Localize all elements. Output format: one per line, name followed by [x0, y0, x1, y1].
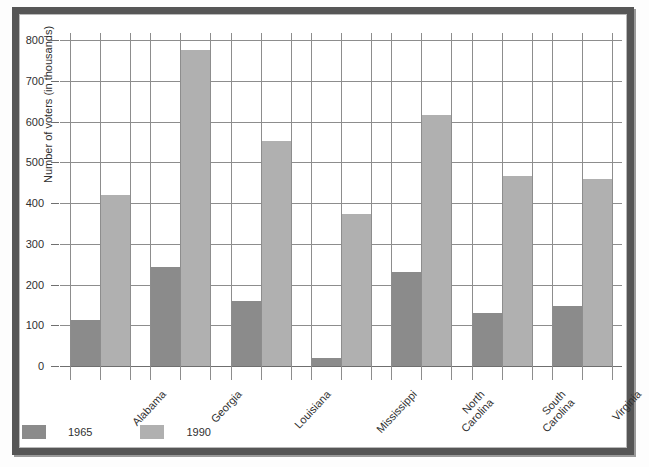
y-tick-mark: [51, 40, 59, 41]
bar-mississippi-1990: [341, 214, 371, 366]
x-tick-mark: [612, 366, 613, 380]
x-gridline: [371, 33, 372, 366]
x-tick-mark: [532, 366, 533, 380]
bar-north-carolina-1965: [391, 272, 421, 366]
y-tick-label: 700: [4, 75, 44, 87]
chart-legend: 1965 1990: [22, 425, 259, 439]
bar-south-carolina-1965: [472, 313, 502, 366]
x-gridline: [341, 33, 342, 366]
bar-louisiana-1965: [231, 301, 261, 366]
x-gridline: [231, 33, 232, 366]
x-gridline: [612, 33, 613, 366]
x-tick-mark: [150, 366, 151, 380]
y-tick-mark: [51, 203, 59, 204]
bar-virginia-1990: [582, 179, 612, 366]
chart-figure: Number of voters (in thousands) 01002003…: [0, 0, 649, 467]
x-tick-mark: [582, 366, 583, 380]
x-tick-mark: [261, 366, 262, 380]
x-gridline: [552, 33, 553, 366]
x-tick-mark: [210, 366, 211, 380]
bar-georgia-1965: [150, 267, 180, 366]
y-tick-mark: [51, 244, 59, 245]
x-gridline: [311, 33, 312, 366]
x-gridline: [210, 33, 211, 366]
x-gridline: [582, 33, 583, 366]
legend-swatch-1965: [22, 425, 46, 439]
legend-label-1965: 1965: [68, 426, 92, 438]
y-tick-mark: [51, 122, 59, 123]
bar-alabama-1965: [70, 320, 100, 366]
x-gridline: [532, 33, 533, 366]
x-tick-mark: [391, 366, 392, 380]
x-tick-mark: [130, 366, 131, 380]
y-tick-label: 0: [4, 360, 44, 372]
y-tick-label: 500: [4, 156, 44, 168]
x-tick-mark: [311, 366, 312, 380]
x-gridline: [291, 33, 292, 366]
bar-north-carolina-1990: [421, 115, 451, 366]
x-tick-mark: [421, 366, 422, 380]
x-tick-mark: [291, 366, 292, 380]
legend-item-1965: 1965: [22, 425, 92, 439]
y-tick-mark: [51, 366, 59, 367]
legend-item-1990: 1990: [140, 425, 210, 439]
x-tick-mark: [451, 366, 452, 380]
y-tick-label: 400: [4, 197, 44, 209]
x-gridline: [502, 33, 503, 366]
x-tick-mark: [70, 366, 71, 380]
x-gridline: [130, 33, 131, 366]
x-gridline: [150, 33, 151, 366]
legend-swatch-1990: [140, 425, 164, 439]
x-gridline: [421, 33, 422, 366]
x-gridline: [472, 33, 473, 366]
x-tick-mark: [502, 366, 503, 380]
bar-south-carolina-1990: [502, 176, 532, 366]
y-tick-label: 800: [4, 34, 44, 46]
bar-alabama-1990: [100, 195, 130, 366]
x-tick-mark: [371, 366, 372, 380]
x-gridline: [391, 33, 392, 366]
bars-container: 0100200300400500600700800AlabamaGeorgiaL…: [60, 33, 622, 373]
y-tick-label: 600: [4, 116, 44, 128]
x-gridline: [70, 33, 71, 366]
x-gridline: [180, 33, 181, 366]
bar-virginia-1965: [552, 306, 582, 366]
y-tick-mark: [51, 81, 59, 82]
x-gridline: [451, 33, 452, 366]
plot-area: Number of voters (in thousands) 01002003…: [60, 33, 622, 373]
y-tick-label: 100: [4, 319, 44, 331]
y-tick-mark: [51, 325, 59, 326]
x-tick-mark: [341, 366, 342, 380]
x-tick-mark: [231, 366, 232, 380]
bar-louisiana-1990: [261, 141, 291, 366]
y-tick-mark: [51, 285, 59, 286]
y-tick-mark: [51, 162, 59, 163]
x-gridline: [100, 33, 101, 366]
x-tick-mark: [472, 366, 473, 380]
x-tick-mark: [180, 366, 181, 380]
x-gridline: [261, 33, 262, 366]
bar-mississippi-1965: [311, 358, 341, 366]
legend-label-1990: 1990: [186, 426, 210, 438]
y-tick-label: 200: [4, 279, 44, 291]
y-tick-label: 300: [4, 238, 44, 250]
x-tick-mark: [552, 366, 553, 380]
bar-georgia-1990: [180, 50, 210, 366]
x-tick-mark: [100, 366, 101, 380]
